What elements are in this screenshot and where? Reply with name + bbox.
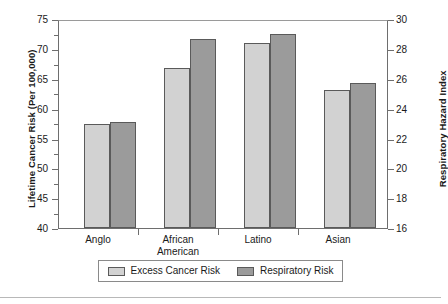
xaxis-divider-1 — [138, 229, 139, 235]
bar-african-american-respiratory-risk — [190, 39, 216, 228]
legend-item-excess-cancer-risk: Excess Cancer Risk — [108, 266, 220, 276]
ytick-mark-right-26 — [388, 80, 394, 81]
xaxis-label-african-american-line1: African — [143, 234, 213, 246]
xaxis-label-african-american-line2: American — [143, 246, 213, 258]
ytick-label-right-16: 16 — [396, 224, 436, 234]
ytick-mark-right-16 — [388, 229, 394, 230]
ytick-mark-right-24 — [388, 110, 394, 111]
ytick-mark-left-65 — [52, 80, 58, 81]
ytick-mark-left-45 — [52, 199, 58, 200]
ytick-label-right-20: 20 — [396, 164, 436, 174]
xaxis-label-latino: Latino — [223, 234, 293, 246]
bar-african-american-excess-cancer-risk — [164, 68, 190, 228]
ytick-mark-right-20 — [388, 169, 394, 170]
ytick-label-right-24: 24 — [396, 105, 436, 115]
bar-group-african-american — [159, 21, 229, 228]
ytick-label-left-75: 75 — [8, 15, 48, 25]
ytick-mark-right-30 — [388, 20, 394, 21]
ytick-mark-right-28 — [388, 50, 394, 51]
ytick-mark-left-minor-6 — [54, 184, 58, 185]
xaxis-label-latino-line1: Latino — [223, 234, 293, 246]
ytick-mark-left-minor-7 — [54, 214, 58, 215]
ytick-mark-left-60 — [52, 110, 58, 111]
legend-swatch-icon-excess-cancer-risk — [108, 267, 125, 276]
ytick-mark-left-70 — [52, 50, 58, 51]
bar-anglo-respiratory-risk — [110, 122, 136, 228]
xaxis-label-anglo: Anglo — [63, 234, 133, 246]
ytick-mark-left-minor-2 — [54, 65, 58, 66]
bar-asian-excess-cancer-risk — [324, 90, 350, 228]
ytick-label-left-40: 40 — [8, 224, 48, 234]
ytick-mark-left-75 — [52, 20, 58, 21]
chart-legend: Excess Cancer Risk Respiratory Risk — [98, 260, 343, 282]
xaxis-label-anglo-line1: Anglo — [63, 234, 133, 246]
y-axis-title-right: Respiratory Hazard Index — [438, 34, 448, 224]
legend-label-respiratory-risk: Respiratory Risk — [260, 266, 333, 276]
xaxis-label-african-american: African American — [143, 234, 213, 257]
xaxis-label-asian: Asian — [303, 234, 373, 246]
ytick-mark-right-22 — [388, 140, 394, 141]
ytick-mark-left-minor-1 — [54, 35, 58, 36]
ytick-label-right-30: 30 — [396, 15, 436, 25]
ytick-mark-left-40 — [52, 229, 58, 230]
ytick-mark-right-18 — [388, 199, 394, 200]
page-divider-rule — [0, 297, 441, 298]
bar-group-anglo — [79, 21, 149, 228]
y-axis-title-left: Lifetime Cancer Risk (Per 100,000) — [27, 34, 37, 224]
ytick-mark-left-minor-5 — [54, 154, 58, 155]
ytick-label-right-26: 26 — [396, 75, 436, 85]
plot-area — [58, 20, 388, 229]
ytick-label-right-18: 18 — [396, 194, 436, 204]
bar-anglo-excess-cancer-risk — [84, 124, 110, 228]
xaxis-label-asian-line1: Asian — [303, 234, 373, 246]
bar-latino-respiratory-risk — [270, 34, 296, 228]
ytick-mark-left-minor-3 — [54, 94, 58, 95]
xaxis-divider-3 — [298, 229, 299, 235]
ytick-label-right-28: 28 — [396, 45, 436, 55]
legend-item-respiratory-risk: Respiratory Risk — [237, 266, 333, 276]
legend-label-excess-cancer-risk: Excess Cancer Risk — [131, 266, 220, 276]
ytick-mark-left-minor-4 — [54, 124, 58, 125]
ytick-mark-left-50 — [52, 169, 58, 170]
ytick-mark-left-55 — [52, 140, 58, 141]
bar-asian-respiratory-risk — [350, 83, 376, 228]
bar-group-asian — [319, 21, 389, 228]
ytick-label-right-22: 22 — [396, 135, 436, 145]
xaxis-divider-2 — [218, 229, 219, 235]
bar-latino-excess-cancer-risk — [244, 43, 270, 228]
bar-group-latino — [239, 21, 309, 228]
legend-swatch-icon-respiratory-risk — [237, 267, 254, 276]
